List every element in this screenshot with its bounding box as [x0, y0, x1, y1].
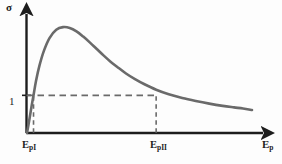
x-axis-label: Ep — [262, 139, 274, 150]
x-tick-label-ep1-subscript: pI — [29, 143, 36, 152]
y-axis-label: σ — [6, 2, 12, 13]
x-tick-label-ep1-main: E — [22, 139, 29, 150]
x-tick-label-ep2: EpII — [150, 140, 167, 151]
secondary-electron-yield-figure: σ Ep 1 EpI EpII — [0, 0, 282, 164]
x-tick-label-ep1: EpI — [22, 140, 36, 151]
x-tick-label-ep2-main: E — [150, 139, 157, 150]
yield-curve-path — [27, 27, 252, 133]
x-tick-label-ep2-subscript: pII — [157, 143, 167, 152]
x-axis-label-subscript: p — [269, 143, 273, 152]
y-tick-label-1: 1 — [9, 96, 15, 107]
plot-canvas — [0, 0, 282, 164]
